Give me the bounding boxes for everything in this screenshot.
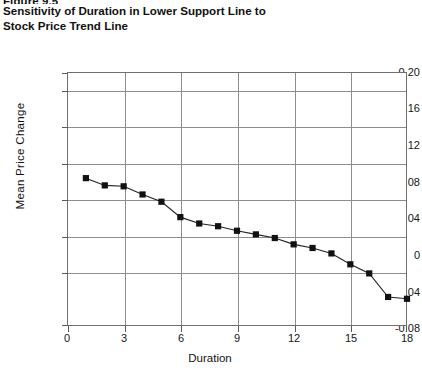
- x-tick-mark: [181, 326, 182, 332]
- x-tick-label: 3: [109, 333, 139, 344]
- x-tick-label: 18: [392, 333, 422, 344]
- gridline-horizontal: [68, 237, 406, 238]
- y-tick-mark: [62, 164, 68, 165]
- x-axis-title: Duration: [0, 352, 420, 364]
- x-tick-label: 0: [52, 333, 82, 344]
- gridline-vertical: [351, 73, 352, 325]
- y-tick-mark: [62, 273, 68, 274]
- x-tick-label: 12: [279, 333, 309, 344]
- gridline-horizontal: [68, 164, 406, 165]
- gridline-horizontal: [68, 91, 406, 92]
- figure-title: Sensitivity of Duration in Lower Support…: [3, 4, 333, 33]
- y-tick-mark: [62, 237, 68, 238]
- y-tick-mark: [62, 91, 68, 92]
- x-tick-mark: [351, 326, 352, 332]
- x-tick-label: 15: [336, 333, 366, 344]
- gridline-vertical: [125, 73, 126, 325]
- x-tick-label: 9: [222, 333, 252, 344]
- gridline-vertical: [295, 73, 296, 325]
- plot-area: [67, 72, 407, 326]
- figure-title-line-1: Sensitivity of Duration in Lower Support…: [3, 4, 266, 17]
- x-tick-mark: [125, 326, 126, 332]
- gridline-vertical: [181, 73, 182, 325]
- x-tick-mark: [295, 326, 296, 332]
- gridline-vertical: [238, 73, 239, 325]
- y-tick-mark: [62, 200, 68, 201]
- x-tick-mark: [68, 326, 69, 332]
- gridline-horizontal: [68, 273, 406, 274]
- x-tick-label: 6: [166, 333, 196, 344]
- gridline-horizontal: [68, 200, 406, 201]
- x-tick-mark: [238, 326, 239, 332]
- y-axis-title: Mean Price Change: [14, 76, 26, 236]
- y-tick-mark: [62, 127, 68, 128]
- y-tick-mark: [62, 73, 68, 74]
- x-tick-mark: [406, 326, 407, 332]
- figure-title-line-2: Stock Price Trend Line: [3, 19, 333, 34]
- gridline-horizontal: [68, 127, 406, 128]
